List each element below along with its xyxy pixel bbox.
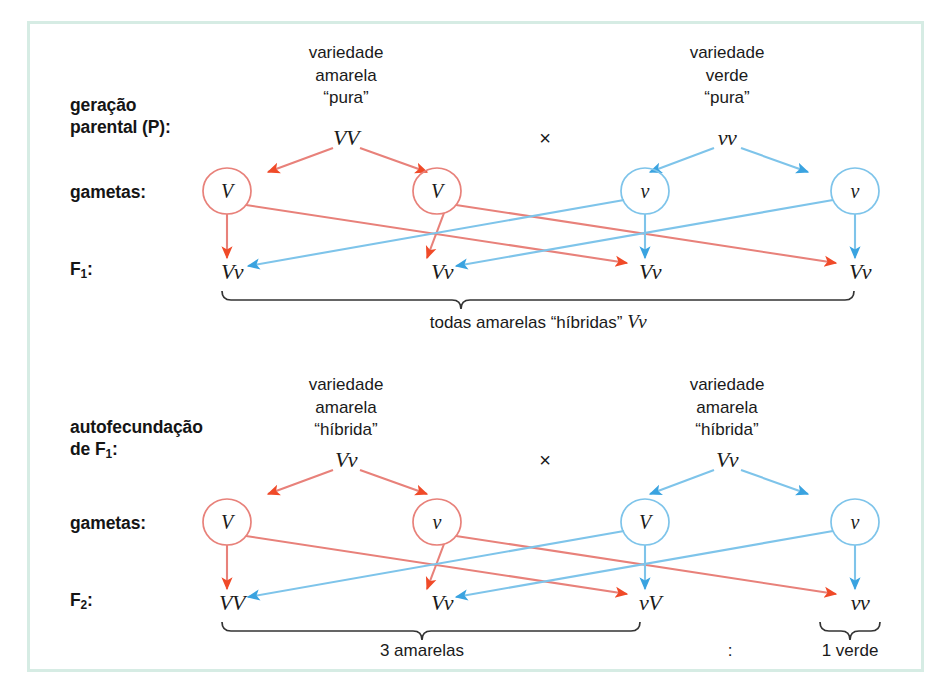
bottom-gamete-circles [203, 499, 879, 545]
f2-offspring-1: VV [219, 590, 245, 616]
top-left-parent-caption: variedade amarela “pura” [309, 42, 384, 110]
f1-label: F [70, 259, 81, 279]
row-label-gametes-top: gametas: [70, 181, 146, 203]
f1-offspring-3: Vv [639, 259, 661, 285]
bottom-right-parent-line2: amarela [690, 397, 765, 420]
f1-summary: todas amarelas “híbridas” Vv [430, 311, 647, 333]
top-left-parent-line2: amarela [309, 65, 384, 88]
f1-offspring-4: Vv [849, 259, 871, 285]
bottom-right-parent-line1: variedade [690, 374, 765, 397]
f1-summary-prefix: todas amarelas “híbridas” [430, 313, 627, 332]
top-gamete-4: v [851, 180, 860, 203]
bottom-cross-symbol: × [539, 449, 551, 472]
f2-summary-green: 1 verde [822, 641, 879, 661]
f1-summary-genotype: Vv [627, 311, 646, 332]
top-left-parent-line3: “pura” [309, 87, 384, 110]
top-cross-symbol: × [539, 127, 551, 150]
f2-offspring-3: vV [639, 590, 661, 616]
bottom-gamete-1: V [221, 511, 233, 534]
row-label-f2: F2: [70, 589, 93, 613]
top-left-parent-line1: variedade [309, 42, 384, 65]
f2-brace-green [820, 622, 880, 640]
top-gamete-2: V [431, 180, 443, 203]
self-label-line2-pre: de F [70, 439, 106, 459]
bottom-gamete-to-f2-arrows [227, 531, 855, 597]
bottom-gamete-2: v [433, 511, 442, 534]
top-gamete-1: V [221, 180, 233, 203]
gametes-top-label: gametas: [70, 182, 146, 202]
f1-offspring-2: Vv [431, 259, 453, 285]
gametes-bottom-label: gametas: [70, 513, 146, 533]
f2-label: F [70, 590, 81, 610]
f2-offspring-2: Vv [431, 590, 453, 616]
bottom-left-parent-caption: variedade amarela “híbrida” [309, 374, 384, 442]
self-label-line1: autofecundação [70, 416, 203, 438]
row-label-parental-generation: geração parental (P): [70, 94, 171, 139]
top-right-parent-caption: variedade verde “pura” [690, 42, 765, 110]
f2-summary-yellow: 3 amarelas [380, 641, 464, 661]
f1-brace [222, 291, 854, 309]
bottom-left-parent-line3: “híbrida” [309, 419, 384, 442]
f2-ratio-separator: : [728, 641, 733, 661]
bottom-right-parent-caption: variedade amarela “híbrida” [690, 374, 765, 442]
f1-label-colon: : [87, 259, 93, 279]
bottom-right-parent-genotype: Vv [716, 447, 738, 473]
f2-label-colon: : [87, 590, 93, 610]
bottom-right-parent-line3: “híbrida” [690, 419, 765, 442]
parental-label-line1: geração [70, 94, 171, 116]
bottom-gamete-3: V [639, 511, 651, 534]
top-gamete-to-f1-arrows [227, 200, 855, 266]
genetics-diagram-figure: geração parental (P): gametas: F1: varie… [0, 0, 950, 692]
self-label-line2: de F1: [70, 438, 203, 462]
self-label-line2-colon: : [112, 439, 118, 459]
bottom-parent-to-gamete-arrows [268, 470, 808, 494]
f1-offspring-1: Vv [221, 259, 243, 285]
bottom-left-parent-line1: variedade [309, 374, 384, 397]
top-parent-to-gamete-arrows [268, 148, 808, 172]
row-label-gametes-bottom: gametas: [70, 512, 146, 534]
bottom-left-parent-line2: amarela [309, 397, 384, 420]
bottom-left-parent-genotype: Vv [335, 447, 357, 473]
f2-offspring-4: vv [851, 590, 870, 616]
row-label-self-fertilization: autofecundação de F1: [70, 416, 203, 462]
row-label-f1: F1: [70, 258, 93, 282]
top-gamete-3: v [641, 180, 650, 203]
top-right-parent-genotype: vv [718, 125, 737, 151]
top-gamete-circles [203, 168, 879, 214]
top-right-parent-line3: “pura” [690, 87, 765, 110]
top-right-parent-line2: verde [690, 65, 765, 88]
top-left-parent-genotype: VV [333, 125, 359, 151]
bottom-gamete-4: v [851, 511, 860, 534]
top-right-parent-line1: variedade [690, 42, 765, 65]
f2-brace-yellow [222, 622, 640, 640]
parental-label-line2: parental (P): [70, 116, 171, 138]
